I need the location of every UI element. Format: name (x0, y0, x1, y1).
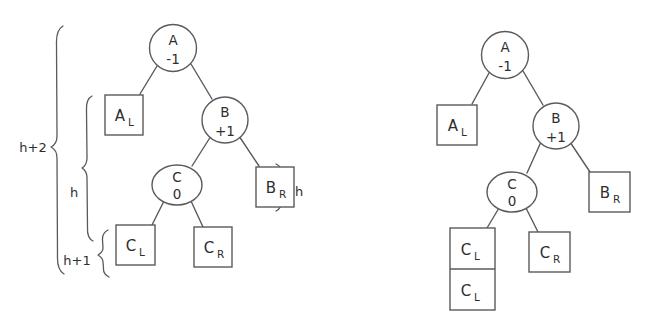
leaf-b-r-label: B (266, 179, 276, 197)
leaf-c-l-subscript: L (139, 246, 145, 258)
r-node-a[interactable]: A -1 (482, 32, 529, 79)
node-b-label: B (220, 104, 229, 120)
r-node-c[interactable]: C 0 (487, 172, 537, 212)
brace-br-h-label: h (295, 184, 303, 199)
r-leaf-c-l-top-label: C (461, 241, 471, 259)
r-leaf-c-r[interactable]: C R (529, 232, 570, 272)
r-node-b[interactable]: B +1 (533, 103, 579, 149)
node-a[interactable]: A -1 (150, 25, 197, 72)
r-leaf-c-l-bottom-subscript: L (474, 291, 480, 303)
r-leaf-b-r-label: B (600, 184, 610, 202)
r-node-c-balance: 0 (508, 193, 517, 209)
leaf-c-l[interactable]: C L (116, 225, 155, 265)
leaf-a-l-subscript: L (128, 116, 134, 128)
brace-h-plus-1-label: h+1 (63, 253, 90, 268)
r-leaf-c-r-subscript: R (553, 253, 560, 265)
r-node-a-balance: -1 (498, 58, 511, 74)
leaf-a-l-label: A (115, 107, 126, 125)
node-c-balance: 0 (173, 186, 182, 202)
brace-h-label: h (70, 185, 78, 200)
leaf-c-r[interactable]: C R (194, 227, 232, 267)
leaf-c-l-label: C (126, 237, 136, 255)
node-c-label: C (172, 169, 181, 185)
r-leaf-c-l-top-subscript: L (474, 250, 480, 262)
r-node-a-label: A (500, 39, 510, 55)
r-node-b-label: B (551, 110, 560, 126)
r-leaf-a-l-subscript: L (461, 126, 467, 138)
node-b[interactable]: B +1 (202, 97, 248, 143)
r-leaf-c-r-label: C (540, 244, 550, 262)
node-a-balance: -1 (166, 51, 179, 67)
r-leaf-a-l-label: A (448, 117, 459, 135)
leaf-b-r-subscript: R (279, 188, 286, 200)
leaf-b-r[interactable]: B R (256, 167, 294, 207)
r-leaf-c-l-stack[interactable]: C L C L (450, 228, 495, 310)
leaf-a-l[interactable]: A L (105, 95, 143, 135)
node-b-balance: +1 (215, 123, 235, 139)
figure-root: h+2 h h+1 h A -1 (0, 0, 651, 319)
r-leaf-c-l-bottom-label: C (461, 282, 471, 300)
leaf-c-r-label: C (204, 239, 214, 257)
brace-h-plus-2-label: h+2 (19, 140, 46, 155)
figure-canvas: h+2 h h+1 h A -1 (0, 0, 651, 319)
r-node-b-balance: +1 (546, 129, 566, 145)
node-a-label: A (168, 32, 178, 48)
r-leaf-b-r[interactable]: B R (589, 172, 630, 212)
node-c[interactable]: C 0 (152, 165, 202, 205)
leaf-c-r-subscript: R (217, 248, 224, 260)
r-node-c-label: C (507, 176, 516, 192)
r-leaf-a-l[interactable]: A L (437, 105, 477, 145)
r-leaf-b-r-subscript: R (613, 193, 620, 205)
